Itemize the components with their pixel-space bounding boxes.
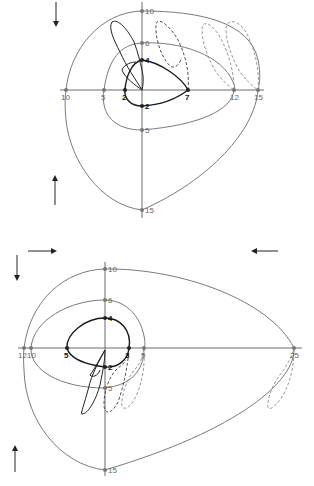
label-top-outer: 10 bbox=[145, 7, 154, 16]
outer-scale-curve bbox=[24, 269, 294, 470]
inner-loop bbox=[67, 318, 130, 367]
lower-axis-points bbox=[22, 267, 296, 472]
label-bottom-inner: 2 bbox=[108, 363, 113, 372]
diagram-canvas: 10 6 4 10 5 2 7 12 15 2 5 15 bbox=[0, 0, 314, 486]
label-top-inner: 4 bbox=[145, 56, 150, 65]
middle-scale-curve bbox=[103, 43, 234, 130]
upper-axis-points bbox=[64, 9, 260, 212]
label-right-inner: 3 bbox=[125, 351, 130, 360]
label-bottom-mid: 5 bbox=[145, 126, 150, 135]
dashed-loop-2 bbox=[202, 24, 234, 90]
label-right-mid: 5 bbox=[141, 351, 146, 360]
label-bottom-outer: 15 bbox=[108, 466, 117, 475]
lower-diagram: 10 6 4 12 10 5 3 5 25 2 5 15 bbox=[15, 251, 302, 476]
label-bottom-outer: 15 bbox=[145, 206, 154, 215]
label-top-outer: 10 bbox=[108, 265, 117, 274]
label-left-mid: 10 bbox=[27, 351, 36, 360]
label-right-inner: 7 bbox=[185, 93, 190, 102]
label-left-inner: 2 bbox=[122, 93, 127, 102]
label-left-outer: 10 bbox=[61, 93, 70, 102]
petal-loop bbox=[81, 350, 105, 414]
middle-scale-curve bbox=[31, 300, 145, 388]
label-bottom-mid: 5 bbox=[108, 384, 113, 393]
label-right-outer: 15 bbox=[254, 93, 263, 102]
label-top-mid: 6 bbox=[108, 296, 113, 305]
label-top-inner: 4 bbox=[108, 314, 113, 323]
label-right-mid: 12 bbox=[230, 93, 239, 102]
inner-loop bbox=[125, 60, 188, 106]
label-left-inner: 5 bbox=[64, 351, 69, 360]
outer-scale-curve bbox=[65, 11, 260, 210]
upper-diagram: 10 6 4 10 5 2 7 12 15 2 5 15 bbox=[55, 2, 264, 218]
label-left-mid: 5 bbox=[101, 93, 106, 102]
dashed-loop-3 bbox=[226, 22, 258, 90]
label-top-mid: 6 bbox=[145, 39, 150, 48]
dashed-loop-1 bbox=[156, 21, 189, 90]
label-bottom-inner: 2 bbox=[145, 102, 150, 111]
label-right-outer: 25 bbox=[290, 351, 299, 360]
